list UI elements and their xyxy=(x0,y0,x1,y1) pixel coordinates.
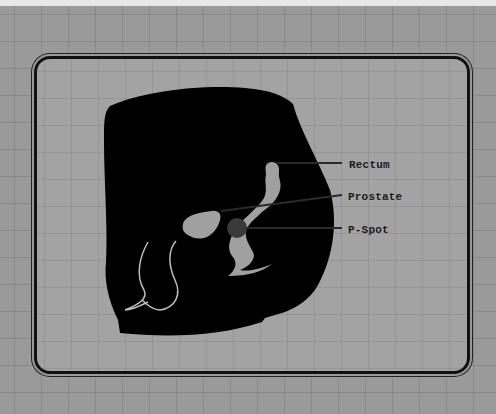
anatomy-diagram xyxy=(0,0,496,414)
label-prostate: Prostate xyxy=(348,191,402,203)
label-rectum: Rectum xyxy=(349,159,390,171)
p-spot-marker xyxy=(227,218,247,238)
body-silhouette xyxy=(104,87,334,336)
label-p-spot: P-Spot xyxy=(348,224,389,236)
